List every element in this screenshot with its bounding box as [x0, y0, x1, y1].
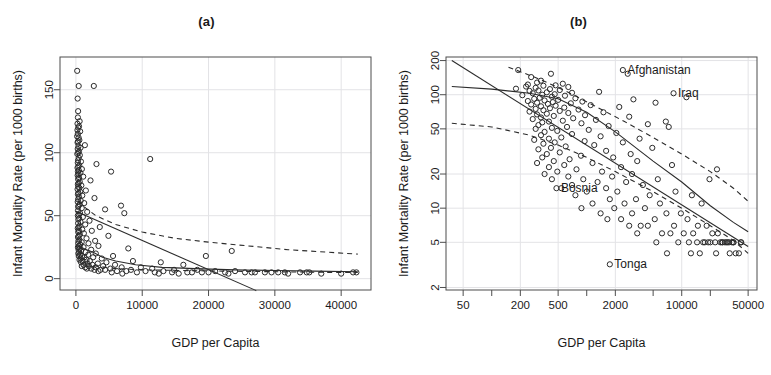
data-point: [647, 193, 652, 198]
data-point: [540, 155, 545, 160]
annotation-label-tonga: Tonga: [614, 257, 647, 271]
data-point: [645, 223, 650, 228]
annotation-marker: [607, 262, 612, 267]
data-point: [97, 224, 102, 229]
data-point: [547, 87, 552, 92]
data-point: [91, 83, 96, 88]
data-point: [652, 217, 657, 222]
data-point: [544, 111, 549, 116]
data-point: [94, 161, 99, 166]
data-point: [663, 119, 668, 124]
data-point: [707, 177, 712, 182]
panel-b-plot: AfghanistanIraqBosniaTonga50200500200010…: [386, 0, 771, 375]
figure-container: (a) 010000200003000040000050100150GDP pe…: [0, 0, 771, 375]
fit-line-upper-dashed-curve: [78, 201, 358, 255]
data-point: [598, 211, 603, 216]
data-point: [87, 218, 92, 223]
data-point: [548, 145, 553, 150]
data-point: [529, 102, 534, 107]
data-point: [203, 253, 208, 258]
data-point: [96, 243, 101, 248]
data-point: [114, 269, 119, 274]
data-point: [529, 74, 534, 79]
data-point: [582, 139, 587, 144]
data-point: [530, 116, 535, 121]
data-point: [130, 258, 135, 263]
annotation-label-bosnia: Bosnia: [561, 181, 598, 195]
data-point: [88, 178, 93, 183]
x-tick-label: 50000: [732, 299, 764, 311]
data-point: [627, 223, 632, 228]
data-point: [102, 207, 107, 212]
data-point: [627, 114, 632, 119]
x-tick-label: 30000: [259, 299, 291, 311]
data-point: [628, 151, 633, 156]
data-point: [148, 156, 153, 161]
data-point: [678, 211, 683, 216]
data-point: [590, 160, 595, 165]
data-point: [713, 251, 718, 256]
data-point: [85, 209, 90, 214]
data-point: [620, 140, 625, 145]
data-point: [710, 231, 715, 236]
data-point: [229, 248, 234, 253]
data-point: [562, 162, 567, 167]
data-point: [699, 201, 704, 206]
y-tick-label: 5: [429, 239, 441, 245]
data-point: [226, 271, 231, 276]
data-point: [548, 71, 553, 76]
data-point: [604, 148, 609, 153]
data-point: [655, 177, 660, 182]
x-tick-label: 10000: [126, 299, 158, 311]
y-tick-label: 100: [429, 85, 441, 104]
annotation-label-iraq: Iraq: [678, 86, 699, 100]
data-point: [106, 233, 111, 238]
data-point: [592, 142, 597, 147]
data-point: [586, 127, 591, 132]
data-point: [533, 106, 538, 111]
y-tick-label: 0: [43, 275, 55, 281]
data-point: [541, 141, 546, 146]
y-axis-title: Infant Mortality Rate (per 1000 births): [11, 70, 25, 277]
data-point: [653, 100, 658, 105]
data-point: [695, 223, 700, 228]
data-point: [92, 195, 97, 200]
x-tick-label: 500: [549, 299, 568, 311]
data-point: [559, 135, 564, 140]
data-point: [232, 269, 237, 274]
data-point: [579, 121, 584, 126]
x-tick-label: 200: [511, 299, 530, 311]
x-tick-label: 2000: [603, 299, 629, 311]
data-point: [582, 113, 587, 118]
data-point: [84, 236, 89, 241]
y-tick-label: 200: [429, 51, 441, 70]
data-point: [120, 271, 125, 276]
data-point: [635, 231, 640, 236]
data-point: [93, 238, 98, 243]
y-tick-label: 2: [429, 284, 441, 290]
data-point: [76, 83, 81, 88]
data-point: [567, 157, 572, 162]
data-point: [590, 201, 595, 206]
data-point: [538, 133, 543, 138]
data-point: [553, 103, 558, 108]
data-point: [134, 270, 139, 275]
data-point: [664, 211, 669, 216]
data-point: [631, 97, 636, 102]
data-point: [638, 223, 643, 228]
data-point: [551, 113, 556, 118]
x-axis-title: GDP per Capita: [171, 336, 259, 350]
x-axis-title: GDP per Capita: [557, 336, 645, 350]
data-point: [659, 231, 664, 236]
data-point: [108, 169, 113, 174]
data-point: [541, 83, 546, 88]
data-point: [597, 89, 602, 94]
data-point: [110, 253, 115, 258]
data-point: [637, 136, 642, 141]
data-point: [550, 100, 555, 105]
panel-b: (b) AfghanistanIraqBosniaTonga5020050020…: [386, 0, 771, 375]
data-point: [671, 223, 676, 228]
data-point: [536, 147, 541, 152]
data-point: [560, 81, 565, 86]
data-point: [664, 251, 669, 256]
